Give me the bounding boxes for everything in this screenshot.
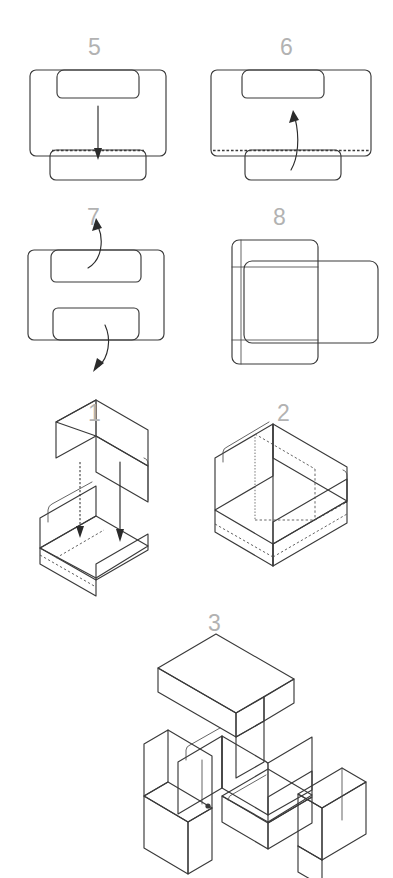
step-1-illustration bbox=[0, 400, 196, 600]
fold-up-arrow bbox=[289, 110, 299, 170]
left-panel-corner-dot bbox=[205, 803, 210, 808]
left-wall-inner-edge bbox=[223, 422, 269, 462]
main-body bbox=[28, 250, 164, 340]
left-side-panel-front bbox=[144, 730, 168, 796]
box-front-right-face bbox=[273, 479, 347, 544]
right-side-panel-top bbox=[298, 768, 366, 808]
step-1-number: 1 bbox=[88, 402, 101, 425]
right-panel-bottom-flap bbox=[298, 846, 322, 878]
step-8-number: 8 bbox=[273, 206, 286, 229]
tray-left-wall-inner-edge bbox=[48, 482, 92, 522]
main-body bbox=[211, 70, 371, 156]
step-6-illustration bbox=[197, 30, 393, 190]
step-3-illustration bbox=[140, 600, 393, 878]
step-6-panel: 6 bbox=[197, 30, 393, 190]
back-left-wall bbox=[178, 736, 222, 814]
box-front-left-face bbox=[215, 510, 273, 566]
lid-top-surface bbox=[158, 634, 294, 713]
back-panel bbox=[232, 240, 318, 364]
base-front-right bbox=[268, 771, 312, 823]
hidden-top-edge bbox=[255, 434, 315, 469]
base-front-left bbox=[222, 796, 268, 849]
base-inner-curve bbox=[228, 775, 266, 800]
right-side-panel-left bbox=[298, 794, 322, 860]
hidden-base-edge-d bbox=[273, 514, 347, 557]
instruction-sheet: 5 6 bbox=[0, 0, 393, 878]
tray-hidden-fold-2 bbox=[40, 555, 96, 587]
left-side-panel-body bbox=[144, 796, 188, 874]
box-bottom-rim bbox=[273, 501, 347, 566]
back-right-wall-inner-edge bbox=[264, 760, 268, 813]
tray-front-left-face bbox=[40, 548, 96, 596]
hidden-base-edge-c bbox=[215, 524, 273, 557]
lid-right-face bbox=[264, 679, 294, 721]
box-right-wall bbox=[273, 424, 347, 501]
step-1-panel: 1 bbox=[0, 400, 196, 600]
step-5-panel: 5 bbox=[0, 30, 196, 190]
left-side-panel-right bbox=[188, 808, 212, 874]
lid-right-wall bbox=[96, 436, 148, 502]
step-2-illustration bbox=[197, 400, 393, 600]
lid-front-left-face bbox=[158, 668, 236, 737]
hidden-base-edge-b bbox=[315, 502, 347, 520]
insert-arrow-dashed bbox=[76, 462, 84, 538]
lid-top-surface bbox=[56, 400, 148, 466]
step-2-panel: 2 bbox=[197, 400, 393, 600]
left-side-panel-edge bbox=[168, 730, 212, 808]
insert-arrow-solid bbox=[116, 462, 124, 542]
right-wall-inner-edge bbox=[343, 470, 347, 499]
step-6-number: 6 bbox=[280, 36, 293, 59]
step-8-illustration bbox=[197, 200, 393, 390]
step-5-number: 5 bbox=[88, 36, 101, 59]
step-2-number: 2 bbox=[277, 402, 290, 425]
base-bottom-rim bbox=[268, 797, 312, 849]
front-panel bbox=[244, 261, 378, 343]
step-7-number: 7 bbox=[87, 206, 100, 229]
step-7-panel: 7 bbox=[0, 200, 196, 390]
step-3-panel: 3 bbox=[140, 600, 393, 878]
back-right-outer-wall bbox=[268, 737, 312, 815]
tray-base-surface bbox=[40, 516, 148, 578]
lower-flap bbox=[53, 308, 139, 340]
upper-flap bbox=[51, 250, 141, 282]
right-side-panel-body bbox=[322, 782, 366, 860]
top-inner-flap bbox=[57, 70, 139, 98]
step-8-panel: 8 bbox=[197, 200, 393, 390]
back-right-wall bbox=[222, 736, 268, 815]
lower-fold-arrow bbox=[93, 325, 109, 372]
right-panel-bottom-edge bbox=[298, 846, 322, 860]
lid-front-flap bbox=[236, 721, 264, 778]
step-3-number: 3 bbox=[208, 612, 221, 635]
top-inner-flap bbox=[242, 70, 324, 98]
fold-direction-arrow bbox=[94, 106, 102, 160]
lid-front-right-tab bbox=[236, 697, 264, 737]
